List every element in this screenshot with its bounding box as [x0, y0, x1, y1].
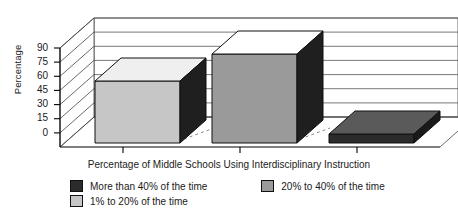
left-side-wall [60, 18, 94, 147]
y-tick-label-0: 0 [22, 128, 48, 138]
x-axis-title: Percentage of Middle Schools Using Inter… [0, 159, 458, 170]
legend-label-20-to-40: 20% to 40% of the time [281, 181, 384, 192]
legend-row-2: 1% to 20% of the time [70, 195, 450, 207]
bar-chart-figure: Percentage 90 75 60 45 30 15 0 Percentag… [0, 0, 458, 224]
y-tick-label-60: 60 [22, 71, 48, 81]
y-tick-label-15: 15 [22, 113, 48, 123]
legend-entry-20-to-40: 20% to 40% of the time [261, 180, 384, 192]
chart-legend: More than 40% of the time 20% to 40% of … [70, 180, 450, 210]
y-tick-label-30: 30 [22, 99, 48, 109]
y-tick-label-75: 75 [22, 57, 48, 67]
legend-label-more-than-40: More than 40% of the time [90, 181, 207, 192]
legend-row-1: More than 40% of the time 20% to 40% of … [70, 180, 450, 192]
legend-swatch-more-than-40-icon [70, 180, 83, 192]
bar-2-percentage-20-to-40 [212, 31, 323, 143]
legend-label-1-to-20: 1% to 20% of the time [90, 196, 188, 207]
y-tick-label-90: 90 [22, 43, 48, 53]
bar-1-percentage-1-to-20 [95, 58, 206, 143]
legend-swatch-20-to-40-icon [261, 180, 274, 192]
legend-swatch-1-to-20-icon [70, 195, 83, 207]
y-axis [54, 48, 60, 147]
y-tick-label-45: 45 [22, 85, 48, 95]
y-axis-title: Percentage [12, 25, 23, 115]
legend-entry-1-to-20: 1% to 20% of the time [70, 195, 188, 207]
x-axis-ticks [123, 147, 357, 153]
legend-entry-more-than-40: More than 40% of the time [70, 180, 207, 192]
